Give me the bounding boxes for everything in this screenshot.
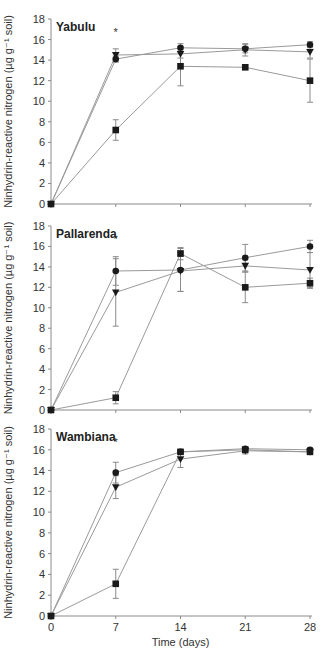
marker-triangle-down bbox=[177, 456, 185, 463]
marker-square bbox=[242, 64, 249, 71]
marker-square bbox=[177, 250, 184, 257]
series-line-triangle bbox=[51, 451, 310, 616]
marker-square bbox=[112, 127, 119, 134]
y-tick-label: 12 bbox=[33, 485, 45, 497]
marker-circle bbox=[112, 268, 119, 275]
significance-asterisk: * bbox=[114, 233, 119, 245]
marker-circle bbox=[112, 469, 119, 476]
y-tick-label: 4 bbox=[39, 568, 45, 580]
x-tick-label: 7 bbox=[113, 621, 119, 633]
y-tick-label: 16 bbox=[33, 444, 45, 456]
y-tick-label: 14 bbox=[33, 261, 45, 273]
panel-yabulu: 024681012141618YabuluNinhydrin-reactive … bbox=[2, 13, 314, 210]
y-tick-label: 10 bbox=[33, 302, 45, 314]
marker-square bbox=[48, 613, 55, 620]
marker-square bbox=[177, 63, 184, 70]
y-tick-label: 14 bbox=[33, 465, 45, 477]
significance-asterisk: * bbox=[114, 26, 119, 38]
x-axis-title: Time (days) bbox=[152, 636, 210, 648]
panel-title: Yabulu bbox=[56, 20, 95, 34]
marker-square bbox=[48, 201, 55, 208]
significance-asterisk: * bbox=[114, 436, 119, 448]
y-tick-label: 4 bbox=[39, 363, 45, 375]
y-tick-label: 14 bbox=[33, 54, 45, 66]
marker-square bbox=[307, 280, 314, 287]
y-tick-label: 2 bbox=[39, 589, 45, 601]
panel-title: Wambiana bbox=[56, 430, 116, 444]
y-tick-label: 2 bbox=[39, 384, 45, 396]
x-tick-label: 21 bbox=[239, 621, 251, 633]
marker-square bbox=[242, 446, 249, 453]
x-tick-label: 28 bbox=[304, 621, 316, 633]
y-tick-label: 10 bbox=[33, 506, 45, 518]
y-axis-title: Ninhydrin-reactive nitrogen (µg g⁻¹ soil… bbox=[2, 222, 14, 415]
y-tick-label: 12 bbox=[33, 75, 45, 87]
marker-square bbox=[242, 284, 249, 291]
y-tick-label: 6 bbox=[39, 343, 45, 355]
marker-square bbox=[112, 394, 119, 401]
marker-square bbox=[48, 407, 55, 414]
x-tick-label: 0 bbox=[48, 621, 54, 633]
marker-square bbox=[112, 580, 119, 587]
panel-pallarenda: 024681012141618PallarendaNinhydrin-react… bbox=[2, 220, 314, 416]
y-tick-label: 18 bbox=[33, 13, 45, 25]
y-tick-label: 4 bbox=[39, 157, 45, 169]
y-tick-label: 8 bbox=[39, 322, 45, 334]
marker-circle bbox=[307, 243, 314, 250]
y-tick-label: 18 bbox=[33, 220, 45, 232]
y-tick-label: 0 bbox=[39, 610, 45, 622]
y-tick-label: 10 bbox=[33, 95, 45, 107]
marker-triangle-down bbox=[306, 267, 314, 274]
marker-triangle-down bbox=[112, 289, 120, 296]
y-tick-label: 8 bbox=[39, 116, 45, 128]
series-line-square bbox=[51, 450, 310, 616]
figure: 024681012141618YabuluNinhydrin-reactive … bbox=[0, 0, 324, 659]
y-tick-label: 0 bbox=[39, 198, 45, 210]
marker-square bbox=[177, 449, 184, 456]
y-axis-title: Ninhydrin-reactive nitrogen (µg g⁻¹ soil… bbox=[2, 426, 14, 619]
y-tick-label: 12 bbox=[33, 281, 45, 293]
series-line-circle bbox=[51, 449, 310, 616]
y-axis-title: Ninhydrin-reactive nitrogen (µg g⁻¹ soil… bbox=[2, 15, 14, 208]
y-tick-label: 8 bbox=[39, 527, 45, 539]
y-tick-label: 16 bbox=[33, 34, 45, 46]
y-tick-label: 0 bbox=[39, 404, 45, 416]
marker-square bbox=[307, 77, 314, 84]
marker-triangle-down bbox=[112, 484, 120, 491]
y-tick-label: 18 bbox=[33, 423, 45, 435]
y-tick-label: 6 bbox=[39, 548, 45, 560]
y-tick-label: 6 bbox=[39, 136, 45, 148]
series-line-square bbox=[51, 66, 310, 204]
marker-circle bbox=[307, 41, 314, 48]
panel-title: Pallarenda bbox=[56, 227, 117, 241]
x-tick-label: 14 bbox=[174, 621, 186, 633]
y-tick-label: 16 bbox=[33, 240, 45, 252]
marker-circle bbox=[242, 254, 249, 261]
marker-square bbox=[307, 449, 314, 456]
chart-canvas: 024681012141618YabuluNinhydrin-reactive … bbox=[0, 0, 324, 659]
y-tick-label: 2 bbox=[39, 177, 45, 189]
marker-circle bbox=[177, 44, 184, 51]
panel-wambiana: 02468101214161807142128WambianaNinhydrin… bbox=[2, 423, 316, 648]
